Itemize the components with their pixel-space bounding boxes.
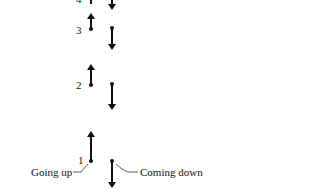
going-up-arrows	[89, 0, 93, 163]
position-label-3: 3	[76, 24, 82, 36]
up-arrow-1	[89, 134, 93, 163]
down-arrow-1	[110, 159, 114, 185]
up-arrow-3	[89, 16, 93, 31]
motion-diagram: 4 3 2 1 Going up Coming down	[0, 0, 335, 190]
coming-down-label: Coming down	[140, 166, 203, 178]
coming-down-leader	[116, 164, 138, 172]
up-arrow-2	[89, 67, 93, 87]
coming-down-arrows	[110, 0, 114, 185]
down-arrow-3	[110, 26, 114, 47]
down-arrow-2	[110, 82, 114, 107]
going-up-label: Going up	[31, 166, 73, 178]
position-label-1: 1	[78, 154, 84, 166]
position-label-2: 2	[76, 79, 82, 91]
position-label-4: 4	[76, 0, 82, 5]
